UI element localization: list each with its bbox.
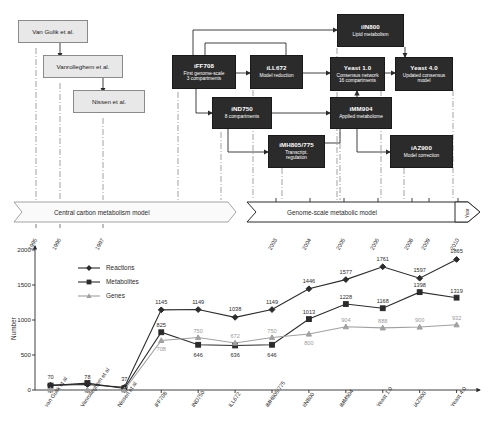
- chart-point-reactions-11: [454, 257, 460, 263]
- chart-data-label-genes-8: 904: [335, 317, 357, 323]
- box-title: iLL672: [266, 65, 286, 72]
- chart-y-tick-2000: 2000: [1, 246, 31, 253]
- chart-data-label-genes-4: 750: [187, 328, 209, 334]
- box-title: Van Gulik et al.: [32, 28, 74, 35]
- chart-point-metabolites-4: [196, 342, 201, 347]
- diagram-box-ill672: iLL672 Model reduction: [250, 55, 303, 89]
- box-subtitle: Model correction: [404, 153, 439, 158]
- chart-data-label-metabolites-1: 98: [76, 379, 98, 385]
- chart-data-label-reactions-10: 1597: [409, 267, 431, 273]
- box-title: iIN800: [361, 24, 380, 31]
- chart-data-label-metabolites-11: 1319: [446, 288, 468, 294]
- diagram-box-imh805-775: iMH805/775 Transcript. regulation: [268, 135, 325, 168]
- chart-data-label-metabolites-0: 63: [40, 382, 62, 388]
- box-subtitle: Model reduction: [259, 73, 293, 78]
- chart-y-tick-0: 0: [1, 386, 31, 393]
- diagram-box-ind750: iND750 8 compartments: [212, 97, 272, 129]
- box-subtitle: Updated consensus model: [403, 73, 445, 84]
- chart-data-label-reactions-0: 70: [40, 374, 62, 380]
- box-title: Vanrolleghem et al.: [57, 63, 110, 70]
- diagram-box-yeast-4-0: Yeast 4.0 Updated consensus model: [395, 57, 453, 91]
- box-title: Nissen et al.: [92, 98, 126, 105]
- chart-data-label-genes-3: 708: [150, 346, 172, 352]
- box-title: iND750: [231, 106, 253, 113]
- timeline-axis-label: Year: [465, 209, 470, 218]
- diagram-box-van-gulik: Van Gulik et al.: [18, 20, 88, 43]
- chart-data-label-genes-5: 672: [224, 333, 246, 339]
- diagram-box-iaz900: iAZ900 Model correction: [390, 135, 453, 168]
- figure-root: Van Gulik et al. Vanrolleghem et al. Nis…: [0, 0, 490, 442]
- chart-point-genes-5: [232, 340, 237, 345]
- box-title: Yeast 1.0: [344, 65, 371, 72]
- chart-point-genes-6: [269, 335, 274, 340]
- chart-data-label-metabolites-7: 1013: [298, 309, 320, 315]
- box-subtitle: Transcript. regulation: [285, 150, 307, 161]
- chart-point-metabolites-8: [343, 302, 348, 307]
- box-title: iAZ900: [411, 145, 432, 152]
- chart-data-label-reactions-9: 1761: [372, 256, 394, 262]
- chart-data-label-genes-9: 888: [372, 318, 394, 324]
- chart-point-genes-4: [196, 335, 201, 340]
- chart-data-label-genes-11: 932: [446, 315, 468, 321]
- diagram-box-yeast-1-0: Yeast 1.0 Consensus network 16 compartme…: [330, 57, 385, 91]
- box-title: iFF708: [194, 63, 214, 70]
- box-subtitle: Consensus network 16 compartments: [336, 73, 378, 84]
- box-subtitle: First genome-scale 3 compartments: [184, 71, 225, 82]
- chart-data-label-metabolites-4: 646: [187, 352, 209, 358]
- banner-left-label: Central carbon metabolism model: [54, 209, 150, 216]
- chart-point-genes-9: [380, 325, 385, 330]
- chart-point-genes-7: [306, 331, 311, 336]
- diagram-box-imm904: iMM904 Applied metabolome: [330, 97, 392, 129]
- chart-data-label-genes-10: 900: [409, 317, 431, 323]
- chart-point-genes-11: [454, 322, 459, 327]
- chart-point-genes-8: [343, 324, 348, 329]
- chart-data-label-metabolites-8: 1228: [335, 294, 357, 300]
- chart-data-label-metabolites-10: 1398: [409, 282, 431, 288]
- chart-data-label-reactions-2: 37: [113, 376, 135, 382]
- diagram-box-vanrolleghem: Vanrolleghem et al.: [43, 55, 123, 78]
- box-subtitle: 8 compartments: [225, 114, 259, 119]
- chart-data-label-metabolites-2: 22: [113, 384, 135, 390]
- chart-point-reactions-10: [417, 275, 423, 281]
- chart-data-label-metabolites-5: 636: [224, 352, 246, 358]
- chart-point-reactions-8: [343, 277, 349, 283]
- chart-point-genes-10: [417, 324, 422, 329]
- chart-point-metabolites-6: [270, 342, 275, 347]
- chart-point-metabolites-11: [454, 295, 459, 300]
- chart-point-metabolites-10: [417, 290, 422, 295]
- box-subtitle: Applied metabolome: [339, 114, 383, 119]
- chart-data-label-genes-7: 800: [298, 340, 320, 346]
- box-title: iMM904: [350, 106, 373, 113]
- box-subtitle: Lipid metabolism: [353, 32, 389, 37]
- diagram-box-nissen: Nissen et al.: [73, 90, 145, 113]
- box-title: Yeast 4.0: [410, 65, 437, 72]
- chart-y-tick-1000: 1000: [1, 316, 31, 323]
- chart-point-reactions-9: [380, 264, 386, 270]
- timeline-banners: [0, 198, 490, 238]
- chart-data-label-metabolites-6: 646: [261, 352, 283, 358]
- chart-point-metabolites-9: [380, 306, 385, 311]
- chart-point-reactions-5: [232, 314, 238, 320]
- diagram-box-iin800: iIN800 Lipid metabolism: [337, 14, 404, 47]
- chart-data-label-metabolites-3: 825: [150, 322, 172, 328]
- chart-data-label-reactions-11: 1865: [446, 248, 468, 254]
- chart-data-label-genes-6: 750: [261, 328, 283, 334]
- diagram-box-iff708: iFF708 First genome-scale 3 compartments: [172, 55, 236, 89]
- chart-point-metabolites-3: [159, 330, 164, 335]
- chart-point-genes-3: [159, 338, 164, 343]
- chart-data-label-metabolites-9: 1168: [372, 298, 394, 304]
- chart-data-label-reactions-8: 1577: [335, 269, 357, 275]
- chart-legend-markers: [78, 262, 278, 308]
- chart-point-reactions-7: [306, 286, 312, 292]
- chart-point-metabolites-7: [307, 317, 312, 322]
- box-title: iMH805/775: [279, 142, 314, 149]
- banner-right-label: Genome-scale metabolic model: [287, 209, 377, 216]
- chart-y-tick-500: 500: [1, 351, 31, 358]
- chart-data-label-reactions-7: 1446: [298, 278, 320, 284]
- chart-y-tick-1500: 1500: [1, 281, 31, 288]
